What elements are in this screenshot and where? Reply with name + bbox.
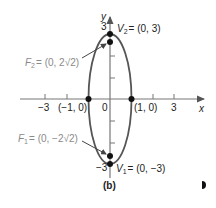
origin-label: 0	[102, 102, 108, 113]
right-intercept-label: (1, 0)	[134, 102, 157, 113]
ellipse-diagram: y x 3 −3 −3 3 0 (−1, 0) (1, 0) V2= (0, 3…	[0, 0, 216, 208]
vertex-v1-label: V1= (0, −3)	[116, 163, 165, 175]
vertex-v2-point	[107, 31, 113, 37]
left-intercept-label: (−1, 0)	[58, 102, 87, 113]
vertex-v2-label: V2= (0, 3)	[117, 23, 161, 35]
y-tick-label-neg3: −3	[96, 162, 108, 173]
focus-f2-label: F2= (0, 2√2)	[25, 57, 79, 69]
focus-f1-label: F1= (0, −2√2)	[18, 133, 78, 145]
vertex-v1-point	[107, 161, 113, 167]
focus-f2-point	[107, 39, 113, 45]
y-tick-label-3: 3	[101, 21, 107, 32]
x-axis-label: x	[198, 103, 205, 114]
focus-f1-point	[107, 153, 113, 159]
figure-caption: (b)	[103, 180, 116, 191]
half-circle-marker-icon	[202, 181, 206, 189]
x-tick-label-3: 3	[171, 102, 177, 113]
x-tick-label-neg3: −3	[38, 102, 50, 113]
